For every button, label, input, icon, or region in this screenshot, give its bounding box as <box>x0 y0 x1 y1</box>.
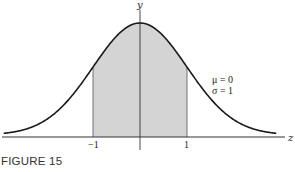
z-axis-label: z <box>288 133 293 143</box>
figure-caption: FIGURE 15 <box>1 155 62 167</box>
mean-label: μ = 0 <box>212 74 233 85</box>
normal-curve-chart <box>0 0 295 150</box>
y-axis-label: y <box>137 0 143 10</box>
tick-label-pos1: 1 <box>184 140 189 150</box>
std-label: σ = 1 <box>212 85 233 96</box>
distribution-parameters: μ = 0 σ = 1 <box>212 74 233 96</box>
tick-label-neg1: −1 <box>88 140 99 150</box>
